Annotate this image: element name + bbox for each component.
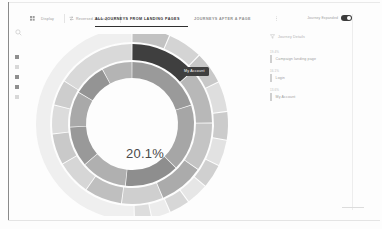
- more-icon[interactable]: [274, 15, 279, 23]
- bottom-rule: [342, 207, 364, 208]
- sidebar-item-dashboards[interactable]: [15, 55, 21, 61]
- top-toolbar: Display Reversed Journey ALL JOURNEYS FR…: [30, 12, 374, 28]
- search-icon[interactable]: [14, 28, 23, 37]
- tab-all-journeys-from-landing-pages[interactable]: ALL JOURNEYS FROM LANDING PAGES: [95, 14, 180, 24]
- journey-expanded-toggle[interactable]: [341, 15, 352, 21]
- sidebar-item-funnels[interactable]: [15, 65, 21, 71]
- grid-icon[interactable]: [30, 15, 35, 23]
- list-item[interactable]: 19.4% Campaign landing page: [270, 50, 366, 63]
- sunburst-svg[interactable]: [34, 34, 256, 216]
- filter-icon: [270, 34, 275, 40]
- sidebar-item-segments[interactable]: [15, 85, 21, 91]
- sunburst-segment[interactable]: [122, 183, 162, 204]
- funnel-icon: [15, 65, 19, 69]
- sunburst-segment[interactable]: [135, 204, 152, 216]
- tab-journeys-after-a-page[interactable]: JOURNEYS AFTER A PAGE: [194, 14, 251, 24]
- journey-expanded-label: Journey Expanded: [307, 16, 338, 20]
- row-bar: [270, 93, 272, 101]
- reverse-icon[interactable]: [69, 15, 74, 23]
- frame-top-border: [8, 2, 380, 3]
- journey-expanded-toggle-wrap: Journey Expanded: [307, 15, 352, 21]
- list-item[interactable]: 13.6% My Account: [270, 88, 366, 101]
- chart-center-value: 20.1%: [34, 146, 256, 161]
- panel-header: Journey Details: [270, 34, 305, 40]
- row-label: My Account: [276, 95, 296, 99]
- toolbar-divider: [64, 14, 65, 23]
- app-window: Display Reversed Journey ALL JOURNEYS FR…: [0, 0, 382, 229]
- journey-icon: [15, 75, 19, 79]
- segment-tooltip: My Account: [180, 67, 209, 76]
- row-bar: [270, 55, 272, 63]
- journey-details-panel: Journey Details 19.4% Campaign landing p…: [262, 30, 366, 110]
- gear-icon: [15, 95, 19, 99]
- panel-title: Journey Details: [278, 35, 305, 39]
- sunburst-segment[interactable]: [52, 106, 70, 134]
- segment-icon: [15, 85, 19, 89]
- row-bar: [270, 74, 272, 82]
- display-button[interactable]: Display: [41, 14, 54, 24]
- frame-bottom-border: [8, 220, 380, 221]
- sidebar-item-journeys[interactable]: [15, 75, 21, 81]
- journey-sunburst-chart: 20.1% My Account: [34, 34, 256, 216]
- active-tab-underline: [95, 26, 188, 27]
- list-item[interactable]: 16.1% Login: [270, 69, 366, 82]
- grid-icon: [15, 55, 19, 59]
- left-icon-rail: [9, 10, 31, 218]
- row-label: Login: [276, 76, 285, 80]
- row-label: Campaign landing page: [276, 57, 316, 61]
- toggle-knob: [347, 16, 351, 20]
- sidebar-item-settings[interactable]: [15, 95, 21, 101]
- sunburst-segment[interactable]: [213, 112, 228, 140]
